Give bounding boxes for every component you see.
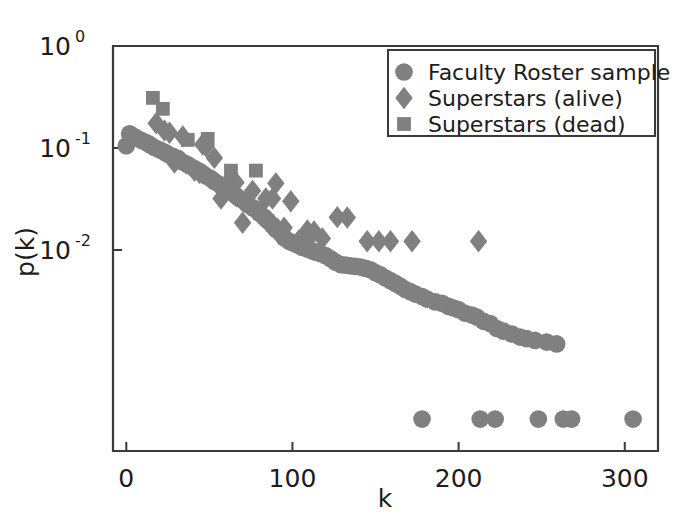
y-tick-exponent: 0 (75, 27, 85, 46)
data-point-square (249, 164, 263, 178)
data-point-circle (548, 335, 566, 353)
legend-label: Faculty Roster sample (428, 60, 670, 85)
legend[interactable]: Faculty Roster sampleSuperstars (alive)S… (388, 50, 670, 137)
y-tick-label: 100 (39, 27, 85, 61)
data-point-diamond (282, 190, 300, 212)
legend-label: Superstars (alive) (428, 86, 623, 111)
y-axis-tick-labels: 10010-110-2 (39, 27, 91, 265)
x-axis-ticks (126, 442, 624, 451)
data-point-circle (486, 410, 504, 428)
scatter-plot-figure: 0100200300 10010-110-2 k p(k) Faculty Ro… (0, 0, 688, 523)
x-tick-label: 300 (601, 464, 649, 493)
data-point-circle (563, 410, 581, 428)
y-tick-exponent: -1 (75, 129, 91, 148)
data-point-diamond (470, 230, 488, 252)
data-point-diamond (403, 230, 421, 252)
data-point-square (201, 132, 215, 146)
data-point-diamond (339, 206, 357, 228)
data-point-square (156, 102, 170, 116)
y-tick-exponent: -2 (75, 231, 91, 250)
data-point-circle (624, 410, 642, 428)
legend-label: Superstars (dead) (428, 112, 626, 137)
legend-marker-square (397, 117, 411, 131)
data-point-square (224, 164, 238, 178)
data-point-diamond (382, 230, 400, 252)
legend-item-2[interactable]: Superstars (dead) (397, 112, 626, 137)
x-axis-label: k (378, 484, 393, 513)
x-tick-label: 200 (435, 464, 483, 493)
data-point-square (181, 133, 195, 147)
y-axis-label: p(k) (11, 227, 40, 277)
legend-marker-circle (395, 63, 413, 81)
x-tick-label: 0 (118, 464, 134, 493)
data-point-circle (530, 410, 548, 428)
y-tick-mantissa: 10 (39, 134, 71, 163)
y-tick-mantissa: 10 (39, 32, 71, 61)
data-point-circle (413, 410, 431, 428)
legend-item-1[interactable]: Superstars (alive) (395, 86, 623, 111)
x-tick-label: 100 (269, 464, 317, 493)
legend-item-0[interactable]: Faculty Roster sample (395, 60, 670, 85)
y-tick-label: 10-2 (39, 231, 91, 265)
data-points-layer (117, 91, 641, 428)
plot-canvas: 0100200300 10010-110-2 k p(k) Faculty Ro… (0, 0, 688, 523)
y-tick-label: 10-1 (39, 129, 91, 163)
y-tick-mantissa: 10 (39, 236, 71, 265)
